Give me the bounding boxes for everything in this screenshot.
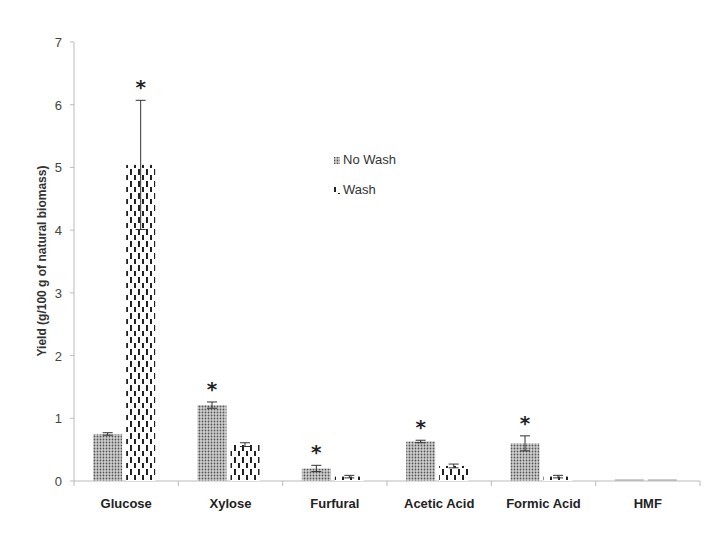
x-category-label: Acetic Acid <box>404 496 474 511</box>
significance-marker: * <box>135 75 146 99</box>
legend-item-no-wash: No Wash <box>334 152 396 167</box>
bar-no-wash: * <box>511 411 540 481</box>
bars: ***** <box>93 75 677 481</box>
x-category-label: Glucose <box>101 496 152 511</box>
bar-no-wash: * <box>198 377 227 481</box>
bar-chart: 01234567 GlucoseXyloseFurfuralAcetic Aci… <box>0 0 728 535</box>
y-tick-label: 2 <box>55 349 62 364</box>
x-category-label: Furfural <box>310 496 359 511</box>
bar-wash <box>231 443 260 481</box>
x-category-label: Xylose <box>210 496 252 511</box>
y-tick-label: 3 <box>55 286 62 301</box>
legend-swatch <box>334 157 340 164</box>
y-tick-label: 4 <box>55 223 62 238</box>
significance-marker: * <box>311 440 322 464</box>
legend-label: No Wash <box>343 152 396 167</box>
y-tick-label: 7 <box>55 35 62 50</box>
y-tick-label: 0 <box>55 474 62 489</box>
y-axis-label: Yield (g/100 g of natural biomass) <box>35 166 49 357</box>
bar-no-wash: * <box>302 440 331 481</box>
significance-marker: * <box>207 377 218 401</box>
x-axis: GlucoseXyloseFurfuralAcetic AcidFormic A… <box>74 481 700 511</box>
y-axis: 01234567 <box>55 35 74 489</box>
bar-wash <box>439 464 468 481</box>
legend-swatch <box>334 187 340 194</box>
bar-no-wash: * <box>406 415 435 481</box>
bar-wash <box>335 475 364 481</box>
bar-wash <box>544 475 573 481</box>
x-category-label: Formic Acid <box>506 496 581 511</box>
y-tick-label: 5 <box>55 160 62 175</box>
significance-marker: * <box>520 411 531 435</box>
legend-item-wash: Wash <box>334 182 376 197</box>
x-category-label: HMF <box>634 496 662 511</box>
bar-wash: * <box>126 75 155 481</box>
significance-marker: * <box>415 415 426 439</box>
y-tick-label: 6 <box>55 98 62 113</box>
legend-label: Wash <box>343 182 376 197</box>
y-tick-label: 1 <box>55 411 62 426</box>
bar-no-wash <box>93 433 122 481</box>
legend: No WashWash <box>334 152 396 197</box>
